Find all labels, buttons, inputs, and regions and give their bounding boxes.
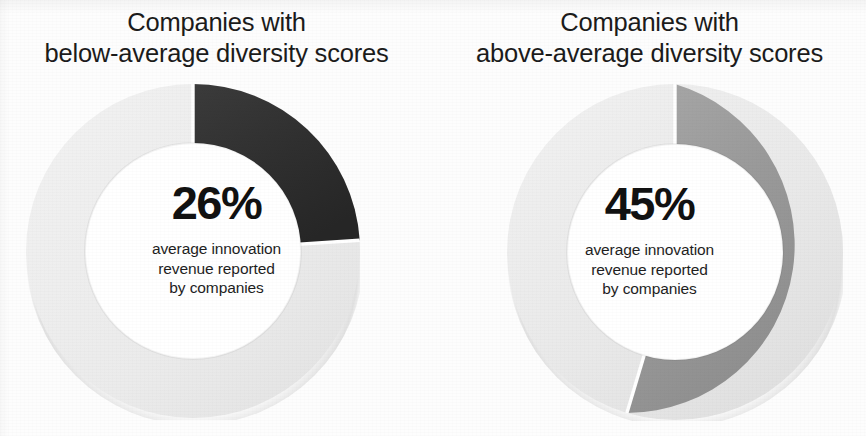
spacer [433,229,866,240]
donut-center-percent: 26% [0,178,433,228]
chart-title-above-average: Companies with above-average diversity s… [433,7,866,69]
chart-panel-below-average: Companies with below-average diversity s… [0,0,433,436]
chart-title-below-average: Companies with below-average diversity s… [0,7,433,69]
donut-center-percent: 45% [433,179,866,229]
donut-center-caption: average innovation revenue reported by c… [433,240,866,299]
chart-panel-above-average: Companies with above-average diversity s… [433,0,866,436]
donut-center-caption: average innovation revenue reported by c… [0,239,433,298]
donut-center-label-above-average: 45% average innovation revenue reported … [433,179,866,299]
donut-center-label-below-average: 26% average innovation revenue reported … [0,178,433,298]
spacer [0,228,433,239]
